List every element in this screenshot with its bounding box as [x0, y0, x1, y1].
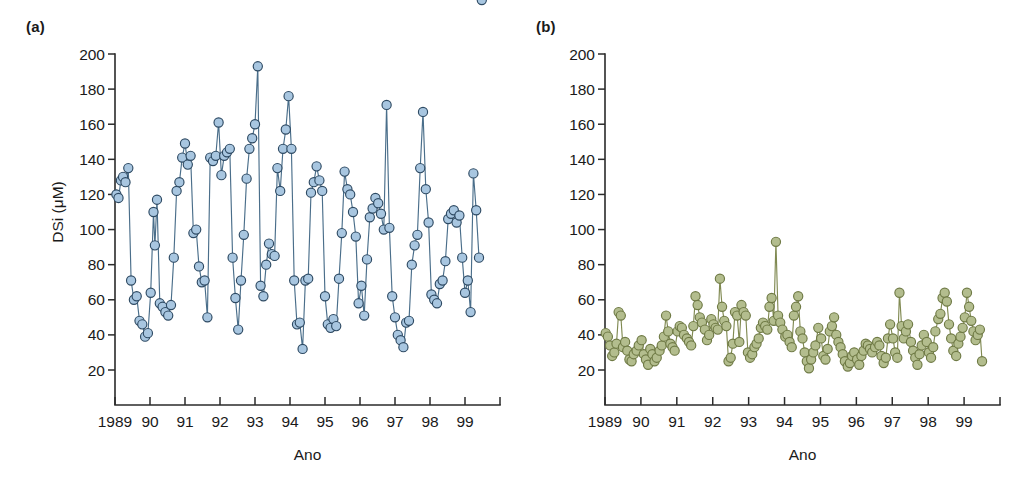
data-point — [936, 309, 945, 318]
series-markers — [112, 0, 487, 354]
data-point — [458, 253, 467, 262]
panel-b-plot: 2040608010012014016018020019899091929394… — [513, 0, 1033, 481]
data-point — [270, 251, 279, 260]
data-point — [278, 144, 287, 153]
data-point — [466, 307, 475, 316]
data-point — [661, 311, 670, 320]
data-point — [794, 292, 803, 301]
data-point — [334, 274, 343, 283]
x-tick-label: 93 — [740, 413, 757, 430]
x-tick-label: 91 — [176, 413, 193, 430]
x-tick-label: 93 — [246, 413, 263, 430]
data-point — [312, 162, 321, 171]
data-point — [217, 171, 226, 180]
figure-container: (a) 204060801001201401601802001989909192… — [0, 0, 1033, 481]
data-point — [893, 353, 902, 362]
data-point — [895, 288, 904, 297]
data-point — [789, 311, 798, 320]
data-point — [441, 257, 450, 266]
data-point — [754, 334, 763, 343]
x-tick-label: 96 — [351, 413, 368, 430]
data-point — [186, 151, 195, 160]
panel-b: (b) 204060801001201401601802001989909192… — [513, 0, 1033, 481]
panel-a: (a) 204060801001201401601802001989909192… — [0, 0, 520, 481]
data-point — [315, 176, 324, 185]
data-point — [693, 300, 702, 309]
data-point — [203, 313, 212, 322]
data-point — [200, 276, 209, 285]
data-point — [691, 292, 700, 301]
data-point — [150, 241, 159, 250]
data-point — [284, 92, 293, 101]
data-point — [416, 164, 425, 173]
data-point — [472, 206, 481, 215]
data-point — [664, 327, 673, 336]
data-point — [348, 207, 357, 216]
data-point — [245, 144, 254, 153]
data-point — [942, 297, 951, 306]
data-point — [385, 223, 394, 232]
x-tick-label: 99 — [456, 413, 473, 430]
data-point — [127, 276, 136, 285]
data-point — [357, 281, 366, 290]
data-point — [771, 237, 780, 246]
data-point — [180, 139, 189, 148]
data-point — [413, 230, 422, 239]
data-point — [143, 329, 152, 338]
data-point — [374, 199, 383, 208]
y-tick-label: 40 — [88, 326, 106, 343]
data-point — [956, 332, 965, 341]
data-point — [657, 341, 666, 350]
data-point — [621, 337, 630, 346]
x-tick-label: 95 — [316, 413, 333, 430]
data-point — [114, 193, 123, 202]
data-point — [687, 341, 696, 350]
data-point — [295, 318, 304, 327]
data-point — [250, 120, 259, 129]
data-point — [340, 167, 349, 176]
data-point — [169, 253, 178, 262]
data-point — [637, 336, 646, 345]
data-point — [231, 293, 240, 302]
data-point — [940, 288, 949, 297]
data-point — [351, 232, 360, 241]
y-tick-label: 200 — [79, 46, 105, 63]
data-point — [421, 185, 430, 194]
data-point — [689, 322, 698, 331]
data-point — [455, 211, 464, 220]
data-point — [376, 209, 385, 218]
data-point — [264, 239, 273, 248]
y-tick-label: 80 — [88, 256, 106, 273]
y-tick-label: 40 — [578, 326, 596, 343]
data-point — [603, 332, 612, 341]
x-tick-label: 92 — [211, 413, 228, 430]
data-point — [460, 288, 469, 297]
x-tick-label: 90 — [141, 413, 159, 430]
data-point — [337, 228, 346, 237]
x-tick-label: 95 — [812, 413, 829, 430]
y-tick-label: 20 — [578, 362, 596, 379]
data-point — [124, 164, 133, 173]
data-point — [670, 346, 679, 355]
data-point — [248, 134, 257, 143]
data-point — [958, 323, 967, 332]
data-point — [290, 276, 299, 285]
y-tick-label: 160 — [79, 116, 105, 133]
data-point — [888, 334, 897, 343]
data-point — [906, 337, 915, 346]
data-point — [715, 274, 724, 283]
data-point — [821, 355, 830, 364]
data-point — [306, 188, 315, 197]
data-point — [616, 311, 625, 320]
data-point — [225, 144, 234, 153]
data-point — [175, 178, 184, 187]
data-point — [915, 350, 924, 359]
x-tick-label: 98 — [421, 413, 438, 430]
data-point — [138, 320, 147, 329]
data-point — [354, 299, 363, 308]
data-point — [320, 292, 329, 301]
data-point — [735, 337, 744, 346]
x-tick-label: 1989 — [98, 413, 132, 430]
data-point — [132, 292, 141, 301]
data-point — [388, 292, 397, 301]
